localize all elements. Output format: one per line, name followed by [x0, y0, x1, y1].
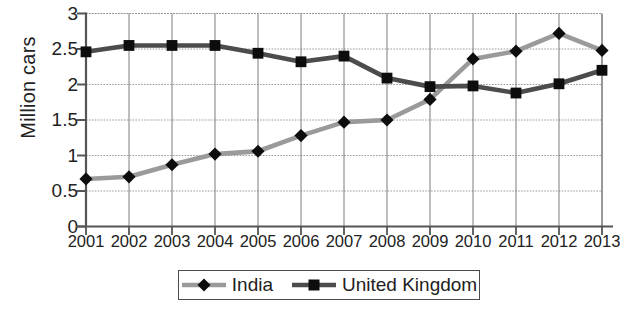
data-point-marker — [167, 40, 178, 51]
x-axis-tick-label: 2007 — [326, 232, 363, 251]
data-point-marker — [511, 88, 522, 99]
x-axis-tick-label: 2013 — [584, 232, 620, 251]
data-point-marker — [253, 48, 264, 59]
data-point-marker — [208, 147, 221, 160]
data-point-marker — [210, 40, 221, 51]
x-axis-tick-label: 2003 — [154, 232, 191, 251]
data-point-marker — [552, 27, 565, 40]
x-axis-tick-label: 2001 — [68, 232, 105, 251]
data-point-marker — [597, 65, 608, 76]
data-point-marker — [165, 158, 178, 171]
data-point-marker — [124, 40, 135, 51]
data-point-marker — [595, 44, 608, 57]
united-kingdom-series-swatch-icon — [291, 276, 337, 294]
legend-item-india: India — [181, 274, 273, 296]
x-axis-tick-label: 2006 — [283, 232, 320, 251]
x-axis-tick-label: 2004 — [197, 232, 234, 251]
legend-item-united-kingdom: United Kingdom — [291, 274, 477, 296]
x-axis-tick-labels: 2001200220032004200520062007200820092010… — [0, 232, 613, 258]
india-series-swatch-icon — [181, 276, 227, 294]
x-axis-tick-label: 2010 — [455, 232, 492, 251]
data-point-marker — [81, 46, 92, 57]
x-axis-tick-label: 2005 — [240, 232, 277, 251]
data-point-marker — [337, 116, 350, 129]
legend-label-india: India — [232, 274, 273, 296]
x-axis-tick-label: 2012 — [541, 232, 578, 251]
data-point-marker — [382, 73, 393, 84]
data-point-marker — [294, 129, 307, 142]
data-point-marker — [251, 145, 264, 158]
data-point-marker — [339, 51, 350, 62]
chart-legend: India United Kingdom — [178, 270, 480, 300]
data-point-marker — [468, 81, 479, 92]
data-point-marker — [79, 172, 92, 185]
x-axis-tick-label: 2009 — [412, 232, 449, 251]
data-point-marker — [296, 56, 307, 67]
x-axis-tick-label: 2011 — [498, 232, 533, 251]
data-point-marker — [554, 78, 565, 89]
x-axis-tick-label: 2008 — [369, 232, 406, 251]
data-point-marker — [122, 170, 135, 183]
x-axis-tick-label: 2002 — [111, 232, 148, 251]
data-point-marker — [509, 45, 522, 58]
legend-label-united-kingdom: United Kingdom — [342, 274, 477, 296]
data-point-marker — [425, 81, 436, 92]
